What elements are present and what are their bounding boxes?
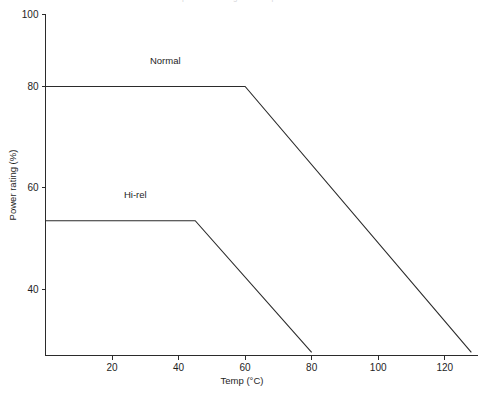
data-series-group xyxy=(46,87,472,353)
axes-group xyxy=(46,15,479,356)
x-tick-label: 120 xyxy=(436,362,453,373)
x-tick-label: 100 xyxy=(370,362,387,373)
x-tick-label: 80 xyxy=(306,362,318,373)
x-tick-label: 60 xyxy=(240,362,252,373)
x-axis-title: Temp (°C) xyxy=(221,375,264,386)
series-line-normal xyxy=(46,87,472,353)
y-axis-title: Power rating (%) xyxy=(7,150,18,221)
chart-figure: power derating with temperature 40608010… xyxy=(0,0,485,399)
y-tick-label: 40 xyxy=(27,284,39,295)
power-derating-chart: 406080100 20406080100120 NormalHi-rel Te… xyxy=(0,0,485,399)
x-tick-label: 40 xyxy=(173,362,185,373)
series-label-hi-rel: Hi-rel xyxy=(124,189,147,200)
y-tick-label-top: 100 xyxy=(22,9,39,20)
y-tick-label: 60 xyxy=(27,182,39,193)
y-tick-label: 80 xyxy=(27,81,39,92)
x-axis-ticks: 20406080100120 xyxy=(106,356,453,373)
series-labels-group: NormalHi-rel xyxy=(124,55,181,200)
series-label-normal: Normal xyxy=(150,55,181,66)
series-line-hi-rel xyxy=(46,221,312,353)
x-tick-label: 20 xyxy=(106,362,118,373)
y-axis-ticks: 406080100 xyxy=(22,9,46,295)
